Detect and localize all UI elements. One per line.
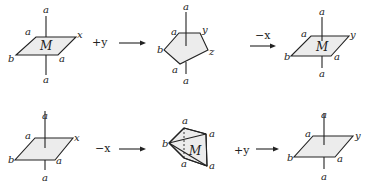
label-upper-left: a bbox=[305, 128, 311, 139]
operation-label: +y bbox=[234, 144, 250, 157]
label-center-m: M bbox=[188, 144, 202, 158]
label-upper-right: x bbox=[74, 132, 80, 143]
label-upper-left: a bbox=[301, 28, 307, 39]
label-lower-right: a bbox=[334, 51, 340, 62]
row2-fig3-parallelogram: a a y b a a bbox=[287, 109, 361, 182]
row2-fig1-parallelogram: a a x b a a bbox=[8, 110, 80, 183]
label-upper-right: y bbox=[349, 29, 356, 40]
row2-op2: +y bbox=[234, 144, 279, 157]
label-lower-left: a bbox=[172, 64, 178, 75]
label-left: b bbox=[162, 138, 168, 149]
arrow-head-icon bbox=[140, 41, 146, 46]
label-lower-right: a bbox=[56, 155, 62, 166]
label-upper-right: y bbox=[201, 24, 208, 35]
label-lower-left: b bbox=[287, 152, 293, 163]
label-bottom: a bbox=[319, 68, 325, 79]
row1-fig2-pentagon: a a y z b a a bbox=[157, 1, 215, 86]
row1-op1: +y bbox=[92, 36, 146, 49]
label-upper-left: a bbox=[171, 26, 177, 37]
label-top: a bbox=[319, 6, 325, 17]
square-plane bbox=[15, 138, 73, 160]
label-top: a bbox=[43, 4, 49, 15]
row1-op2: −x bbox=[250, 29, 276, 49]
label-center-m: M bbox=[315, 40, 329, 54]
label-upper-right: x bbox=[77, 29, 83, 40]
label-center-m: M bbox=[39, 39, 53, 53]
label-left: b bbox=[157, 44, 163, 55]
label-top: a bbox=[183, 1, 189, 12]
row2-fig2-pyramid: a a b M a a bbox=[162, 115, 215, 171]
label-lower-right: a bbox=[209, 160, 215, 171]
label-top: a bbox=[321, 109, 327, 120]
label-upper-right: y bbox=[354, 130, 361, 141]
reaction-diagram: a a x M b a a +y a a y z b a a −x a bbox=[0, 0, 369, 185]
label-right: z bbox=[208, 46, 215, 57]
label-upper-right: a bbox=[209, 128, 215, 139]
label-lower-left: a bbox=[181, 158, 187, 169]
arrow-head-icon bbox=[140, 147, 146, 152]
label-upper-left: a bbox=[25, 26, 31, 37]
row1-fig3-parallelogram: a a y M b a a bbox=[284, 6, 356, 79]
operation-label: +y bbox=[92, 36, 108, 49]
label-lower-right: a bbox=[337, 153, 343, 164]
label-bottom: a bbox=[42, 172, 48, 183]
row2-op1: −x bbox=[95, 142, 146, 155]
label-top: a bbox=[42, 110, 48, 121]
operation-label: −x bbox=[255, 29, 271, 42]
label-lower-left: b bbox=[8, 53, 14, 64]
label-bottom: a bbox=[321, 171, 327, 182]
label-bottom: a bbox=[43, 74, 49, 85]
label-lower-right: a bbox=[59, 53, 65, 64]
arrow-head-icon bbox=[270, 44, 276, 49]
row1-fig1-parallelogram: a a x M b a a bbox=[8, 4, 83, 85]
label-lower-left: b bbox=[8, 154, 14, 165]
label-upper-left: a bbox=[25, 130, 31, 141]
label-lower-left: b bbox=[284, 51, 290, 62]
label-top: a bbox=[182, 115, 188, 126]
arrow-head-icon bbox=[273, 147, 279, 152]
operation-label: −x bbox=[95, 142, 111, 155]
label-bottom: a bbox=[183, 75, 189, 86]
